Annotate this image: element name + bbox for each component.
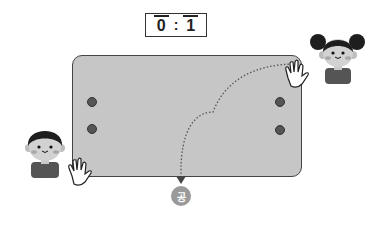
ball-label: 공 [177, 189, 186, 204]
boy-hand-icon [69, 158, 92, 185]
trajectory-path [176, 64, 296, 184]
girl-hand-icon [286, 60, 309, 87]
girl-player [310, 34, 365, 84]
trajectory-layer [0, 0, 385, 228]
ball: 공 [171, 186, 191, 206]
boy-player [25, 131, 65, 178]
